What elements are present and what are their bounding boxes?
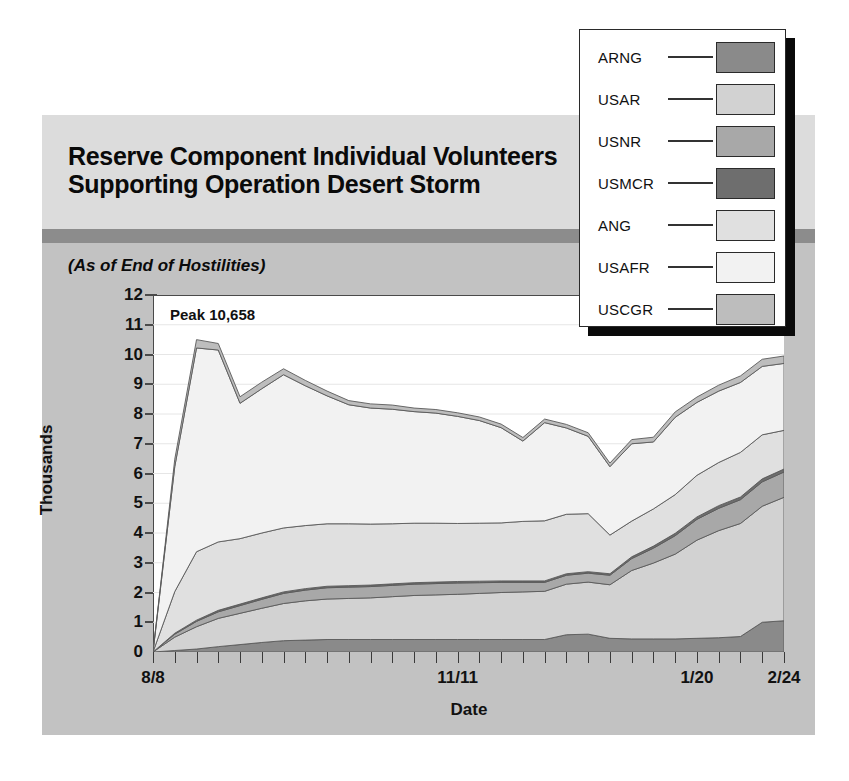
- x-axis-tick-mark: [653, 652, 654, 663]
- legend-item-ang[interactable]: ANG: [580, 204, 785, 246]
- x-axis-tick-mark: [284, 652, 285, 663]
- x-axis-tick-label: 1/20: [680, 668, 713, 688]
- x-axis-tick-mark: [784, 652, 785, 663]
- x-axis-tick-mark: [523, 652, 524, 663]
- x-axis-tick-mark: [632, 652, 633, 663]
- x-axis-tick-mark: [262, 652, 263, 663]
- y-axis: 0123456789101112: [75, 285, 151, 665]
- x-axis-tick-mark: [479, 652, 480, 663]
- legend-item-label: USCGR: [598, 301, 653, 318]
- legend-color-swatch: [716, 252, 775, 283]
- title-line-1: Reserve Component Individual Volunteers: [68, 142, 557, 170]
- chart-subtitle: (As of End of Hostilities): [68, 256, 265, 276]
- x-axis-tick-mark: [740, 652, 741, 663]
- x-axis-tick-mark: [349, 652, 350, 663]
- x-axis-tick-mark: [610, 652, 611, 663]
- x-axis-tick-mark: [675, 652, 676, 663]
- y-axis-tick-label: 12: [124, 285, 143, 305]
- legend-item-label: USMCR: [598, 175, 654, 192]
- y-axis-tick-label: 9: [134, 374, 143, 394]
- y-axis-tick-label: 4: [134, 523, 143, 543]
- legend-color-swatch: [716, 294, 775, 325]
- x-axis-tick-mark: [197, 652, 198, 663]
- y-axis-tick-label: 6: [134, 464, 143, 484]
- x-axis-tick-mark: [436, 652, 437, 663]
- x-axis-tick-mark: [414, 652, 415, 663]
- legend-color-swatch: [716, 168, 775, 199]
- x-axis-tick-mark: [175, 652, 176, 663]
- legend-leader-line: [668, 224, 713, 226]
- x-axis-tick-mark: [588, 652, 589, 663]
- x-axis-tick-label: 2/24: [767, 668, 800, 688]
- x-axis-tick-mark: [566, 652, 567, 663]
- legend-leader-line: [668, 56, 713, 58]
- legend-item-usafr[interactable]: USAFR: [580, 246, 785, 288]
- legend-item-arng[interactable]: ARNG: [580, 36, 785, 78]
- y-axis-tick-label: 11: [125, 315, 143, 335]
- legend-leader-line: [668, 98, 713, 100]
- legend-item-usar[interactable]: USAR: [580, 78, 785, 120]
- x-axis-tick-mark: [458, 652, 459, 663]
- y-axis-tick-label: 0: [134, 642, 143, 662]
- legend-item-label: ARNG: [598, 49, 642, 66]
- x-axis-tick-mark: [545, 652, 546, 663]
- x-axis-label: Date: [451, 700, 488, 720]
- legend-item-label: ANG: [598, 217, 631, 234]
- x-axis-tick-mark: [697, 652, 698, 663]
- chart-legend: ARNGUSARUSNRUSMCRANGUSAFRUSCGR: [579, 29, 786, 327]
- y-axis-tick-label: 8: [134, 404, 143, 424]
- y-axis-tick-label: 7: [134, 434, 143, 454]
- x-axis-ticks: [153, 652, 785, 664]
- legend-item-usmcr[interactable]: USMCR: [580, 162, 785, 204]
- y-axis-tick-label: 2: [134, 583, 143, 603]
- legend-color-swatch: [716, 210, 775, 241]
- x-axis-tick-mark: [153, 652, 154, 663]
- legend-item-label: USNR: [598, 133, 641, 150]
- y-axis-tick-label: 3: [134, 553, 143, 573]
- x-axis-tick-mark: [327, 652, 328, 663]
- legend-leader-line: [668, 182, 713, 184]
- stacked-area-chart: [153, 295, 784, 652]
- legend-color-swatch: [716, 42, 775, 73]
- legend-color-swatch: [716, 126, 775, 157]
- y-axis-tick-label: 5: [134, 493, 143, 513]
- y-axis-tick-label: 10: [124, 345, 143, 365]
- x-axis-tick-label: 11/11: [437, 668, 478, 688]
- legend-item-label: USAFR: [598, 259, 650, 276]
- legend-leader-line: [668, 266, 713, 268]
- x-axis-tick-label: 8/8: [141, 668, 165, 688]
- y-axis-tick-label: 1: [134, 612, 143, 632]
- x-axis-tick-mark: [240, 652, 241, 663]
- x-axis-tick-mark: [218, 652, 219, 663]
- y-axis-label: Thousands: [37, 425, 57, 516]
- x-axis-tick-mark: [762, 652, 763, 663]
- x-axis-tick-mark: [371, 652, 372, 663]
- legend-color-swatch: [716, 84, 775, 115]
- legend-leader-line: [668, 308, 713, 310]
- x-axis-tick-mark: [392, 652, 393, 663]
- plot-area: [153, 295, 784, 652]
- x-axis-tick-mark: [501, 652, 502, 663]
- x-axis-tick-mark: [719, 652, 720, 663]
- legend-item-usnr[interactable]: USNR: [580, 120, 785, 162]
- x-axis-tick-mark: [305, 652, 306, 663]
- legend-item-label: USAR: [598, 91, 640, 108]
- peak-annotation: Peak 10,658: [170, 306, 255, 323]
- legend-leader-line: [668, 140, 713, 142]
- legend-item-uscgr[interactable]: USCGR: [580, 288, 785, 330]
